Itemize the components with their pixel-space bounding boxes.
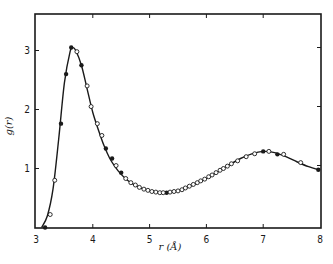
open-point	[203, 177, 207, 181]
x-tick-label: 6	[204, 234, 210, 245]
filled-point	[275, 152, 279, 156]
filled-point	[69, 45, 73, 49]
open-point	[142, 187, 146, 191]
y-axis-label: g(r)	[3, 116, 14, 135]
open-point	[150, 190, 154, 194]
open-point	[53, 178, 57, 182]
open-point	[236, 159, 240, 163]
open-point	[100, 133, 104, 137]
filled-point	[43, 225, 47, 229]
open-point	[299, 161, 303, 165]
open-point	[221, 167, 225, 171]
x-tick-label: 3	[33, 234, 39, 245]
open-point	[267, 149, 271, 153]
open-point	[48, 213, 52, 217]
open-point	[187, 184, 191, 188]
filled-point	[64, 72, 68, 76]
x-tick-label: 7	[260, 234, 266, 245]
open-point	[191, 182, 195, 186]
filled-data-points	[43, 45, 321, 229]
open-point	[161, 191, 165, 195]
open-point	[85, 84, 89, 88]
open-point	[176, 189, 180, 193]
axis-ticks	[35, 14, 321, 228]
filled-point	[104, 146, 108, 150]
open-point	[114, 164, 118, 168]
open-point	[137, 185, 141, 189]
open-point	[282, 152, 286, 156]
x-tick-label: 5	[147, 234, 153, 245]
y-tick-label: 3	[24, 45, 30, 56]
open-point	[129, 181, 133, 185]
open-point	[229, 162, 233, 166]
open-point	[133, 183, 137, 187]
open-point	[210, 173, 214, 177]
open-point	[172, 190, 176, 194]
x-tick-label: 8	[317, 234, 323, 245]
open-point	[146, 188, 150, 192]
open-point	[124, 177, 128, 181]
open-point	[168, 190, 172, 194]
gr-curve	[42, 47, 320, 227]
x-tick-label: 4	[90, 234, 96, 245]
filled-point	[261, 149, 265, 153]
filled-point	[110, 156, 114, 160]
y-tick-label: 1	[24, 163, 30, 174]
open-point	[244, 155, 248, 159]
open-point	[214, 171, 218, 175]
filled-point	[79, 63, 83, 67]
open-point	[183, 186, 187, 190]
rdf-chart: 345678 123 r (Å) g(r)	[0, 0, 333, 264]
open-point	[95, 122, 99, 126]
open-point	[75, 50, 79, 54]
y-tick-label: 2	[24, 104, 30, 115]
open-point	[199, 179, 203, 183]
x-axis-label: r (Å)	[159, 241, 182, 252]
filled-point	[59, 121, 63, 125]
filled-point	[119, 170, 123, 174]
open-data-points	[48, 50, 302, 217]
open-point	[253, 152, 257, 156]
open-point	[154, 190, 158, 194]
open-point	[89, 105, 93, 109]
y-tick-labels: 123	[24, 45, 30, 174]
filled-point	[316, 167, 320, 171]
plot-frame	[35, 14, 321, 228]
open-point	[225, 164, 229, 168]
